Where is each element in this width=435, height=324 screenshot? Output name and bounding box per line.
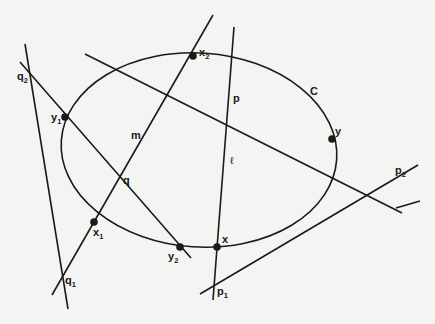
- label-q1: q1: [65, 274, 76, 289]
- label-x2: x2: [199, 46, 209, 61]
- tangent-q1-q2: [25, 44, 68, 309]
- point-y2: [176, 243, 184, 251]
- point-y1: [61, 113, 69, 121]
- label-x1: x1: [93, 226, 103, 241]
- label-p1: p1: [217, 285, 228, 300]
- label-l: ℓ: [230, 155, 234, 166]
- label-y2: y2: [168, 250, 178, 265]
- label-x: x: [222, 233, 229, 245]
- label-q: q: [123, 174, 130, 186]
- label-y1: y1: [51, 111, 61, 126]
- conic-pole-polar-diagram: x2 y1 q2 m p C y ℓ q x1 y2 x p1 p2 q1: [0, 0, 435, 324]
- point-x1: [90, 218, 98, 226]
- label-y: y: [335, 125, 342, 137]
- line-y1-y2: [20, 62, 191, 258]
- label-c: C: [310, 85, 318, 97]
- label-p: p: [233, 92, 240, 104]
- label-q2: q2: [17, 70, 28, 85]
- tangent-p1-p2: [200, 165, 418, 294]
- line-m: [52, 15, 213, 295]
- point-x: [213, 243, 221, 251]
- point-x2: [189, 52, 197, 60]
- conic-curve-c: [55, 44, 344, 257]
- label-m: m: [131, 129, 141, 141]
- tangent-at-y: [396, 201, 420, 208]
